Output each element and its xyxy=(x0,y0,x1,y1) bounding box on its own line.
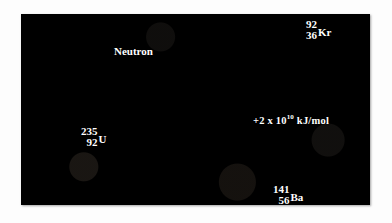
uranium-235-sphere xyxy=(79,71,130,122)
neutron-leader-line xyxy=(91,54,112,64)
uranium-symbol: U xyxy=(99,133,107,145)
released-neutron-1 xyxy=(331,74,347,90)
released-neutron-2 xyxy=(314,93,329,108)
barium-symbol: Ba xyxy=(291,191,304,203)
barium-atomic-number: 56 xyxy=(279,195,290,205)
krypton-symbol: Kr xyxy=(318,26,331,38)
krypton-atomic-number: 36 xyxy=(306,30,317,41)
uranium-235-label: 235 92 U xyxy=(81,126,106,147)
diagram-panel: Neutron 235 92 U 92 36 Kr 141 56 Ba +2 x… xyxy=(21,14,370,205)
energy-unit: kJ/mol xyxy=(294,115,329,126)
energy-release-label: +2 x 1010 kJ/mol xyxy=(253,113,329,126)
fission-diagram-figure: Neutron 235 92 U 92 36 Kr 141 56 Ba +2 x… xyxy=(0,0,392,223)
krypton-92-label: 92 36 Kr xyxy=(306,19,331,40)
energy-prefix: +2 x 10 xyxy=(253,115,287,126)
barium-141-label: 141 56 Ba xyxy=(273,184,303,205)
fission-illustration xyxy=(21,14,370,205)
krypton-mass-number: 92 xyxy=(306,19,317,30)
uranium-atomic-number: 92 xyxy=(87,137,98,148)
neutron-label: Neutron xyxy=(114,45,153,57)
barium-mass-number: 141 xyxy=(273,184,290,195)
energy-exponent: 10 xyxy=(287,113,294,121)
krypton-92-sphere xyxy=(310,44,330,64)
incoming-neutron-sphere xyxy=(77,60,92,75)
released-neutron-3 xyxy=(325,129,341,145)
uranium-mass-number: 235 xyxy=(81,126,98,137)
